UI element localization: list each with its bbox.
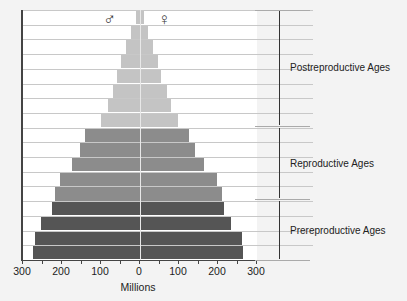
post-bracket-arrow — [279, 11, 280, 125]
gridline — [23, 216, 313, 217]
male-bar — [80, 143, 140, 157]
gridline — [23, 84, 313, 85]
female-bar — [140, 84, 167, 98]
female-bar — [140, 99, 171, 113]
tick-mark — [22, 260, 23, 264]
tick-mark — [100, 260, 101, 264]
tick-mark — [217, 260, 218, 264]
tick-mark — [81, 260, 82, 264]
pyramid-plot — [21, 10, 257, 260]
male-bar — [41, 216, 140, 230]
female-bar — [140, 187, 222, 201]
female-bar — [140, 172, 217, 186]
tick-mark — [237, 260, 238, 264]
gridline — [23, 201, 313, 202]
separator-top — [255, 10, 310, 11]
gridline — [23, 128, 313, 129]
gridline — [23, 69, 313, 70]
gridline — [23, 186, 313, 187]
tick-label: 300 — [247, 265, 265, 277]
female-bar — [140, 128, 189, 142]
female-bar — [140, 216, 231, 230]
label-reproductive: Reproductive Ages — [290, 158, 374, 169]
x-axis — [21, 260, 255, 261]
center-line — [140, 10, 141, 260]
female-bar — [140, 40, 153, 54]
tick-mark — [120, 260, 121, 264]
tick-mark — [139, 260, 140, 264]
tick-label: 100 — [91, 265, 109, 277]
male-symbol-icon: ♂ — [103, 10, 116, 30]
female-bar — [140, 25, 148, 39]
female-bar — [140, 231, 242, 245]
male-bar — [117, 69, 140, 83]
tick-label: 100 — [169, 265, 187, 277]
male-bar — [101, 114, 140, 128]
separator-bottom — [255, 260, 310, 261]
female-bar — [140, 158, 204, 172]
gridline — [23, 113, 313, 114]
male-bar — [113, 84, 140, 98]
gridline — [23, 231, 313, 232]
male-bar — [131, 25, 140, 39]
repro-bracket-arrow — [279, 128, 280, 198]
tick-mark — [198, 260, 199, 264]
female-bar — [140, 143, 195, 157]
male-bar — [60, 172, 140, 186]
tick-label: 300 — [13, 265, 31, 277]
separator-post-repro — [255, 126, 310, 127]
tick-label: 200 — [208, 265, 226, 277]
tick-label: 200 — [52, 265, 70, 277]
female-bar — [140, 246, 243, 260]
male-bar — [126, 40, 140, 54]
tick-mark — [159, 260, 160, 264]
male-bar — [33, 246, 140, 260]
male-bar — [108, 99, 140, 113]
gridline — [23, 54, 313, 55]
female-bar — [140, 55, 158, 69]
female-bar — [140, 69, 161, 83]
male-bar — [85, 128, 140, 142]
gridline — [23, 245, 313, 246]
male-bar — [55, 187, 140, 201]
pre-bracket-arrow — [279, 201, 280, 259]
gridline — [23, 172, 313, 173]
gridline — [23, 98, 313, 99]
male-bar — [52, 202, 140, 216]
tick-mark — [178, 260, 179, 264]
gridline — [23, 157, 313, 158]
female-bar — [140, 202, 224, 216]
x-axis-label: Millions — [120, 281, 155, 293]
gridline — [23, 142, 313, 143]
male-bar — [35, 231, 140, 245]
male-bar — [121, 55, 140, 69]
tick-mark — [61, 260, 62, 264]
label-postreproductive: Postreproductive Ages — [290, 62, 390, 73]
tick-label: 0 — [136, 265, 142, 277]
female-bar — [140, 114, 178, 128]
male-bar — [72, 158, 140, 172]
label-prereproductive: Prereproductive Ages — [290, 225, 386, 236]
gridline — [23, 39, 313, 40]
tick-mark — [42, 260, 43, 264]
separator-repro-pre — [255, 199, 310, 200]
female-symbol-icon: ♀ — [158, 10, 171, 30]
